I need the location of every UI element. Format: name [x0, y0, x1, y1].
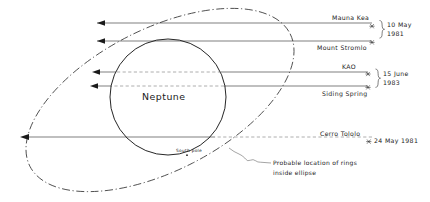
arrowhead-cerro-tololo — [20, 134, 29, 140]
date-cerro-tololo: 24 May 1981 — [374, 137, 418, 145]
date-group-1983-line2: 1983 — [383, 79, 400, 86]
planet-label: Neptune — [142, 91, 186, 102]
station-marker-cerro-tololo — [366, 140, 371, 144]
arrowhead-mauna-kea — [97, 20, 105, 26]
date-group-1981-line2: 1981 — [387, 30, 404, 37]
label-mount-stromlo: Mount Stromlo — [317, 44, 367, 51]
arrowhead-kao — [92, 69, 100, 75]
date-group-1981-line1: 10 May — [387, 21, 412, 29]
occultation-diagram: Neptune South pole Mauna Kea Mount Strom… — [0, 0, 430, 202]
figure-canvas: Neptune South pole Mauna Kea Mount Strom… — [0, 0, 430, 202]
label-mauna-kea: Mauna Kea — [332, 14, 369, 21]
date-group-1983-line1: 15 June — [383, 70, 409, 78]
label-kao: KAO — [342, 63, 356, 70]
chord-mauna-kea — [97, 20, 372, 26]
brace-group-1983 — [376, 69, 381, 87]
note-text-line1: Probable location of rings — [273, 159, 357, 167]
brace-group-1981 — [380, 21, 385, 39]
label-cerro-tololo: Cerro Tololo — [320, 130, 360, 137]
chord-mount-stromlo — [97, 38, 372, 44]
note-leader-line — [229, 148, 271, 163]
note-text-line2: inside ellipse — [273, 169, 316, 177]
south-pole-label: South pole — [176, 148, 202, 153]
station-marker-kao — [365, 72, 370, 76]
arrowhead-siding-spring — [90, 83, 98, 89]
chord-siding-spring — [90, 83, 368, 89]
chord-kao — [92, 69, 368, 75]
arrowhead-mount-stromlo — [97, 38, 105, 44]
south-pole-dot — [186, 154, 188, 156]
station-marker-mauna-kea — [369, 24, 374, 28]
label-siding-spring: Siding Spring — [322, 90, 368, 98]
